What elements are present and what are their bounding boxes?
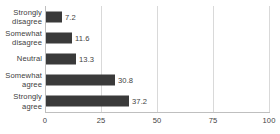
x-axis-tick-labels: 0 25 50 75 100 [0,114,280,132]
x-axis-line [45,112,270,113]
bar-value-somewhat-disagree: 11.6 [75,33,90,42]
bar-neutral [46,53,76,64]
table-row: Neutral 13.3 [0,48,280,69]
x-tick-50: 50 [153,116,162,125]
category-label-somewhat-agree: Somewhat agree [0,71,42,89]
x-tick-25: 25 [97,116,106,125]
bar-somewhat-agree [46,75,115,86]
bar-value-strongly-agree: 37.2 [132,97,147,106]
category-label-somewhat-disagree: Somewhat disagree [0,29,42,47]
bar-strongly-agree [46,96,129,107]
bar-rows: Strongly disagree 7.2 Somewhat disagree … [0,6,280,112]
bar-value-strongly-disagree: 7.2 [65,12,76,21]
table-row: Somewhat agree 30.8 [0,70,280,91]
x-tick-100: 100 [263,116,276,125]
bar-chart: Strongly disagree 7.2 Somewhat disagree … [0,0,280,134]
bar-strongly-disagree [46,11,62,22]
category-label-strongly-disagree: Strongly disagree [0,7,42,25]
table-row: Strongly agree 37.2 [0,91,280,112]
bar-value-neutral: 13.3 [79,54,94,63]
x-tick-75: 75 [209,116,218,125]
x-tick-0: 0 [43,116,47,125]
bar-somewhat-disagree [46,32,72,43]
category-label-strongly-agree: Strongly agree [0,92,42,110]
category-label-neutral: Neutral [0,54,42,63]
table-row: Strongly disagree 7.2 [0,6,280,27]
table-row: Somewhat disagree 11.6 [0,27,280,48]
bar-value-somewhat-agree: 30.8 [118,76,133,85]
